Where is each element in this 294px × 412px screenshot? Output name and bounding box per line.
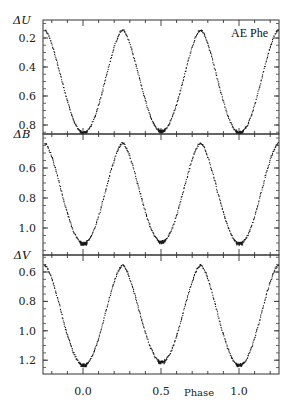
x-tick-label: 0.5 xyxy=(152,385,170,398)
y-tick-label: 0.8 xyxy=(19,295,37,308)
data-points-V xyxy=(44,264,279,367)
y-tick-label: 1.0 xyxy=(19,325,37,338)
y-tick-label: 0.8 xyxy=(19,192,37,205)
data-points-B xyxy=(44,142,279,246)
x-tick-label: 1.0 xyxy=(230,385,248,398)
data-points-U xyxy=(45,29,279,134)
y-axis-title: ΔB xyxy=(13,127,31,141)
y-axis-title: ΔU xyxy=(12,13,31,27)
x-tick-label: 0.0 xyxy=(74,385,92,398)
y-tick-label: 0.4 xyxy=(19,61,37,74)
x-axis-title: Phase xyxy=(184,387,214,398)
light-curve-chart: 0.20.40.60.8ΔU0.60.81.0ΔB0.60.81.01.2ΔVA… xyxy=(0,0,294,412)
panel-frame xyxy=(43,134,279,255)
y-tick-label: 1.0 xyxy=(19,222,37,235)
y-tick-label: 0.2 xyxy=(19,32,37,45)
y-axis-title: ΔV xyxy=(13,248,32,262)
y-tick-label: 0.6 xyxy=(19,90,37,103)
y-tick-label: 1.2 xyxy=(19,354,37,367)
y-tick-label: 0.6 xyxy=(19,266,37,279)
panel-frame xyxy=(43,255,279,374)
y-tick-label: 0.6 xyxy=(19,162,37,175)
star-name-annotation: AE Phe xyxy=(231,26,268,40)
